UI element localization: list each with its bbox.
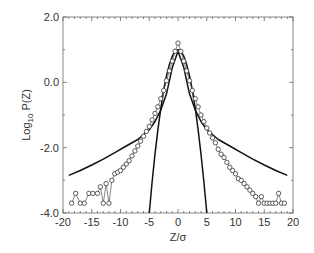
- y-axis-title-rest: P(Z): [20, 89, 32, 113]
- data-point: [216, 147, 220, 151]
- data-point: [213, 141, 217, 145]
- data-point: [205, 126, 209, 130]
- axis-ticks: [63, 17, 293, 213]
- data-point: [130, 154, 134, 158]
- data-point: [153, 111, 157, 115]
- data-point: [107, 201, 111, 205]
- data-point: [210, 136, 214, 140]
- x-tick-label: -15: [84, 216, 100, 228]
- plot-frame: [63, 17, 293, 213]
- data-point: [73, 191, 77, 195]
- data-point: [91, 191, 95, 195]
- x-tick-label: -10: [113, 216, 129, 228]
- y-tick-label: -4.0: [40, 207, 59, 219]
- data-point: [233, 172, 237, 176]
- x-axis-title: Z/σ: [170, 231, 187, 243]
- data-point: [196, 105, 200, 109]
- gaussian-fit-curve: [149, 50, 207, 213]
- data-point: [159, 96, 163, 100]
- data-point: [182, 59, 186, 63]
- data-point: [144, 129, 148, 133]
- y-tick-label: 2.0: [44, 11, 59, 23]
- x-tick-labels: -20-15-10-505101520: [55, 216, 299, 228]
- data-point: [207, 131, 211, 135]
- x-tick-label: 15: [258, 216, 270, 228]
- x-tick-label: 10: [229, 216, 241, 228]
- data-point: [161, 88, 165, 92]
- data-point: [150, 118, 154, 122]
- y-tick-labels: 2.00.0-2.0-4.0: [40, 11, 59, 219]
- data-point: [199, 113, 203, 117]
- data-point: [256, 201, 260, 205]
- data-point: [141, 134, 145, 138]
- data-point: [259, 194, 263, 198]
- y-axis-title: Log10 P(Z): [20, 89, 35, 141]
- data-point: [104, 181, 108, 185]
- x-tick-label: -5: [144, 216, 154, 228]
- data-point: [184, 69, 188, 73]
- data-point: [147, 124, 151, 128]
- y-axis-title-main: Log: [20, 123, 32, 141]
- data-point: [82, 201, 86, 205]
- data-series-line: [72, 43, 285, 203]
- data-point: [138, 139, 142, 143]
- data-point: [164, 79, 168, 83]
- data-point: [274, 201, 278, 205]
- y-tick-label: 0.0: [44, 76, 59, 88]
- x-tick-label: 0: [175, 216, 181, 228]
- data-point: [225, 160, 229, 164]
- data-point: [95, 191, 99, 195]
- broad-tail-fit-curve: [69, 51, 287, 175]
- data-point: [179, 49, 183, 53]
- y-tick-label: -2.0: [40, 142, 59, 154]
- data-point: [282, 201, 286, 205]
- data-point: [156, 105, 160, 109]
- data-point: [136, 144, 140, 148]
- data-point: [110, 178, 114, 182]
- data-point: [98, 185, 102, 189]
- data-point: [253, 194, 257, 198]
- chart: -20-15-10-505101520 2.00.0-2.0-4.0 Z/σ L…: [0, 0, 314, 253]
- data-point: [127, 159, 131, 163]
- data-point: [190, 88, 194, 92]
- data-point: [173, 49, 177, 53]
- plot-border: [63, 17, 293, 213]
- data-point: [101, 201, 105, 205]
- x-tick-label: 20: [287, 216, 299, 228]
- data-point: [167, 69, 171, 73]
- x-tick-label: 5: [204, 216, 210, 228]
- data-point: [222, 155, 226, 159]
- data-point: [176, 41, 180, 45]
- data-point: [133, 149, 137, 153]
- data-point: [193, 96, 197, 100]
- data-point: [170, 59, 174, 63]
- data-point: [187, 79, 191, 83]
- series-layer: [69, 41, 287, 213]
- data-point: [202, 119, 206, 123]
- data-point: [69, 201, 73, 205]
- data-point: [276, 191, 280, 195]
